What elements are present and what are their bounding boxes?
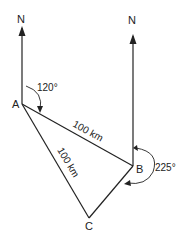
north-arrow-a: N [17, 13, 26, 104]
angle-label-a: 120° [37, 82, 58, 93]
edge-label-ac: 100 km [55, 145, 81, 179]
arc-arrow-icon [124, 180, 131, 186]
edge-label-ab: 100 km [71, 118, 105, 144]
point-label-a: A [12, 98, 20, 110]
angle-label-b: 225° [155, 162, 176, 173]
diagram-canvas: N N 120° 225° A B C 100 km 100 km [0, 0, 192, 240]
bearing-diagram: N N 120° 225° A B C 100 km 100 km [0, 0, 192, 240]
north-arrow-b: N [128, 14, 137, 166]
edge-bc [89, 166, 133, 218]
north-label-b: N [128, 14, 136, 26]
north-label-a: N [17, 13, 25, 25]
arc-arrow-icon [37, 106, 43, 113]
point-label-b: B [136, 163, 143, 175]
edge-ab [22, 104, 133, 166]
arrowhead-icon [130, 34, 137, 44]
arc-arrow-icon [133, 145, 138, 151]
arrowhead-icon [19, 26, 26, 36]
point-label-c: C [85, 220, 93, 232]
